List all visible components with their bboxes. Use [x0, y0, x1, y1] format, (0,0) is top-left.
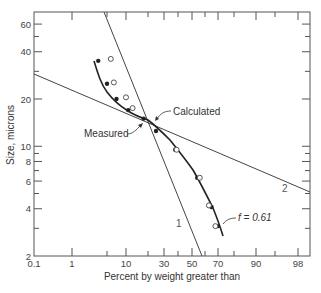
f-annotation: f = 0.61 [238, 212, 272, 223]
line-1-label: 1 [176, 218, 182, 229]
calculated-leader [157, 111, 171, 119]
x-axis-title: Percent by weight greater than [104, 271, 240, 282]
calculated-point [108, 56, 113, 61]
measured-point [154, 129, 158, 133]
y-tick-label: 20 [20, 94, 31, 105]
line-2 [34, 74, 310, 192]
calculated-point [213, 224, 218, 229]
measured-leader [127, 125, 141, 134]
y-tick-label: 2 [26, 251, 31, 262]
calculated-point [130, 106, 135, 111]
measured-annotation: Measured [84, 128, 128, 139]
calculated-annotation: Calculated [173, 106, 220, 117]
calculated-points [108, 56, 218, 228]
calculated-point [111, 80, 116, 85]
x-tick-label: 30 [159, 258, 170, 269]
line-2-label: 2 [282, 183, 288, 194]
calculated-point [124, 95, 129, 100]
x-tick-label: 1 [69, 258, 74, 269]
calculated-point [197, 175, 202, 180]
y-tick-label: 6 [26, 176, 31, 187]
calculated-point [174, 147, 179, 152]
x-tick-label: 90 [251, 258, 262, 269]
y-tick-label: 4 [26, 203, 31, 214]
measured-point [114, 97, 118, 101]
x-axis-ticks: 0.11103050709098 [27, 12, 303, 269]
x-tick-label: 10 [121, 258, 132, 269]
x-tick-label: 70 [213, 258, 224, 269]
x-tick-label: 50 [187, 258, 198, 269]
x-tick-label: 98 [293, 258, 304, 269]
y-tick-label: 60 [20, 19, 31, 30]
y-axis-title: Size, microns [5, 105, 16, 165]
measured-point [105, 82, 109, 86]
calculated-point [206, 203, 211, 208]
y-tick-label: 10 [20, 141, 31, 152]
y-axis-ticks: 604020108642 [20, 19, 310, 262]
measured-point [96, 59, 100, 63]
measured-point [141, 116, 145, 120]
y-tick-label: 40 [20, 46, 31, 57]
y-tick-label: 8 [26, 156, 31, 167]
chart: 0.11103050709098 604020108642 Calculated… [0, 0, 321, 293]
f-leader [223, 218, 236, 224]
